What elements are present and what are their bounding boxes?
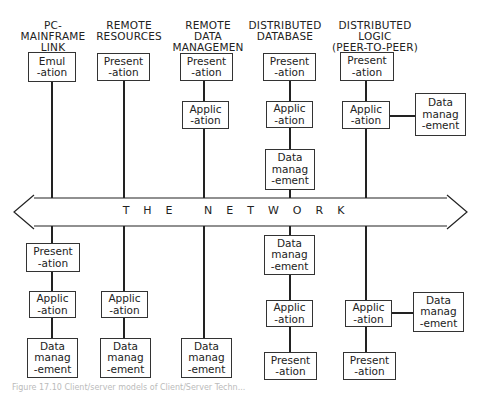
box-application: Applic -ation (182, 101, 229, 129)
box-text: Applic (36, 293, 68, 305)
box-application: Applic -ation (342, 101, 390, 129)
box-text: -ation (274, 67, 304, 79)
box-text: -ement (422, 120, 460, 132)
box-data-management: Data manag -ement (100, 338, 151, 378)
box-data-management: Data manag -ement (415, 93, 466, 136)
box-presentation: Present -ation (180, 53, 233, 81)
box-presentation: Present -ation (340, 52, 394, 81)
box-text: -ement (420, 318, 458, 330)
box-text: -ation (38, 258, 68, 270)
box-text: -ation (191, 67, 221, 79)
box-presentation: Present -ation (264, 352, 317, 380)
box-presentation: Present -ation (97, 53, 150, 81)
box-presentation: Present -ation (343, 352, 396, 380)
box-data-management: Data manag -ement (27, 338, 78, 378)
box-application: Applic -ation (101, 291, 148, 318)
box-data-management: Data manag -ement (413, 292, 464, 332)
box-text: Present (347, 55, 386, 67)
box-application: Applic -ation (266, 101, 313, 128)
box-text: -ation (352, 67, 382, 79)
box-data-management: Data manag -ement (181, 338, 232, 378)
box-data-management: Data manag -ement (265, 149, 315, 190)
box-application: Applic -ation (266, 300, 313, 327)
box-text: -ation (274, 115, 304, 127)
box-text: -ation (353, 314, 383, 326)
box-text: Applic (108, 293, 140, 305)
box-text: -ement (107, 364, 145, 376)
box-text: -ation (351, 115, 381, 127)
box-text: -ation (37, 67, 67, 79)
box-text: Applic (352, 302, 384, 314)
box-text: -ation (275, 366, 305, 378)
box-text: -ement (271, 261, 309, 273)
box-text: -ement (188, 364, 226, 376)
box-text: -ement (271, 175, 309, 187)
box-application: Applic -ation (345, 300, 392, 327)
box-text: -ation (108, 67, 138, 79)
box-text: Applic (273, 103, 305, 115)
box-text: -ation (274, 314, 304, 326)
network-label: THE NETWORK (0, 204, 481, 217)
box-text: -ation (190, 115, 220, 127)
box-text: Present (33, 246, 72, 258)
box-text: Applic (273, 302, 305, 314)
box-text: -ation (37, 305, 67, 317)
box-text: -ation (109, 305, 139, 317)
box-text: -ation (354, 366, 384, 378)
figure-caption: Figure 17.10 Client/server models of Cli… (12, 383, 245, 392)
box-data-management: Data manag -ement (264, 235, 315, 275)
box-presentation: Present -ation (263, 53, 316, 81)
box-application: Applic -ation (29, 291, 76, 318)
box-text: -ement (34, 364, 72, 376)
box-emulation: Emul -ation (28, 52, 76, 82)
box-presentation: Present -ation (26, 243, 80, 272)
